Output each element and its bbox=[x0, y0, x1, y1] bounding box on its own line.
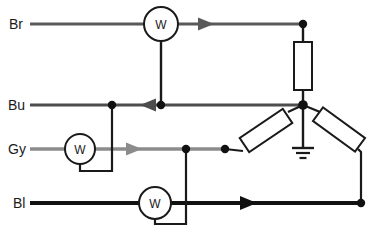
arrow-brown-right bbox=[198, 18, 214, 31]
node-bu-meter bbox=[157, 101, 165, 109]
wire-group-grey bbox=[30, 143, 225, 156]
circuit-diagram-root: W W W Br Bu Gy Bl bbox=[0, 0, 383, 233]
wire-label-gy: Gy bbox=[8, 141, 26, 157]
resistor-right-lead-b bbox=[358, 149, 361, 203]
arrow-black-right bbox=[240, 196, 257, 210]
ground-symbol bbox=[292, 105, 314, 158]
wire-group-black bbox=[30, 196, 361, 210]
arrow-grey-right bbox=[126, 143, 142, 156]
meter-gy[interactable]: W bbox=[65, 134, 95, 164]
resistor-left-body bbox=[240, 109, 293, 152]
meter-br-label: W bbox=[155, 18, 167, 32]
circuit-svg: W W W Br Bu Gy Bl bbox=[0, 0, 383, 233]
node-center bbox=[298, 100, 308, 110]
node-br-right bbox=[299, 20, 307, 28]
arrow-blue-left bbox=[140, 99, 156, 112]
wire-label-bl: Bl bbox=[13, 195, 25, 211]
meter-bl-label: W bbox=[149, 197, 161, 211]
resistor-left-angled bbox=[225, 105, 303, 152]
meter-bl[interactable]: W bbox=[139, 187, 171, 219]
resistor-vertical bbox=[294, 24, 312, 105]
node-bu-loop bbox=[108, 101, 116, 109]
resistor-right-angled bbox=[303, 105, 365, 203]
wire-label-bu: Bu bbox=[8, 97, 25, 113]
node-gy-resistor bbox=[221, 145, 229, 153]
node-bl-right bbox=[357, 199, 365, 207]
wire-group-blue bbox=[30, 99, 303, 112]
resistor-vertical-body bbox=[294, 42, 312, 90]
meter-gy-label: W bbox=[74, 143, 86, 157]
wire-label-br: Br bbox=[9, 16, 23, 32]
meter-br[interactable]: W bbox=[144, 7, 178, 41]
resistor-right-body bbox=[313, 107, 365, 151]
node-gy-bl bbox=[182, 145, 190, 153]
